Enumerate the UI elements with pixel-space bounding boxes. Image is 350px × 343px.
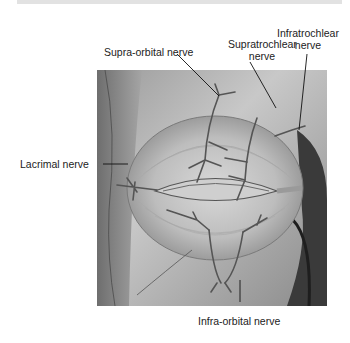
supratrochlear-line2: nerve <box>228 50 296 62</box>
infratrochlear-nerve-label: Infratrochlear nerve <box>268 27 348 51</box>
header-strip <box>17 0 342 4</box>
infratrochlear-line1: Infratrochlear <box>268 27 348 39</box>
infra-orbital-nerve-label: Infra-orbital nerve <box>198 315 280 327</box>
infratrochlear-line2: nerve <box>268 39 348 51</box>
supra-orbital-nerve-label: Supra-orbital nerve <box>104 46 193 58</box>
eyelid-illustration <box>97 70 327 306</box>
lacrimal-nerve-label: Lacrimal nerve <box>20 158 89 170</box>
